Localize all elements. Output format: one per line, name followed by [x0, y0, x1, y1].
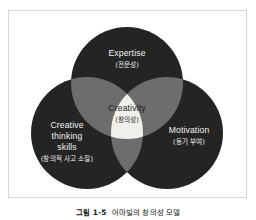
- label-creative-thinking-skills-ko: (창의적 사고 소질): [41, 154, 93, 163]
- label-motivation-ko: (동기 부여): [173, 137, 205, 146]
- venn-svg: Expertise (전문성) Creative thinking skills…: [9, 11, 246, 197]
- label-expertise-ko: (전문성): [115, 60, 139, 69]
- label-creative-thinking-skills-en-line-3: skills: [57, 142, 77, 152]
- figure-caption: 그림 1-5 아마빌의 창의성 모델: [0, 206, 256, 217]
- figure-frame: Expertise (전문성) Creative thinking skills…: [8, 10, 247, 198]
- label-motivation-en: Motivation: [169, 125, 210, 135]
- figure-page: Expertise (전문성) Creative thinking skills…: [0, 0, 256, 220]
- label-creative-thinking-skills-en-line-2: thinking: [52, 131, 83, 141]
- figure-caption-text: 아마빌의 창의성 모델: [112, 208, 181, 217]
- figure-caption-number: 그림 1-5: [76, 208, 107, 217]
- venn-diagram: Expertise (전문성) Creative thinking skills…: [9, 11, 246, 197]
- label-expertise-en: Expertise: [108, 48, 145, 58]
- label-creativity-ko: (창의성): [115, 115, 139, 124]
- label-creative-thinking-skills-en-line-1: Creative: [50, 120, 83, 130]
- label-creativity-en: Creativity: [108, 103, 146, 113]
